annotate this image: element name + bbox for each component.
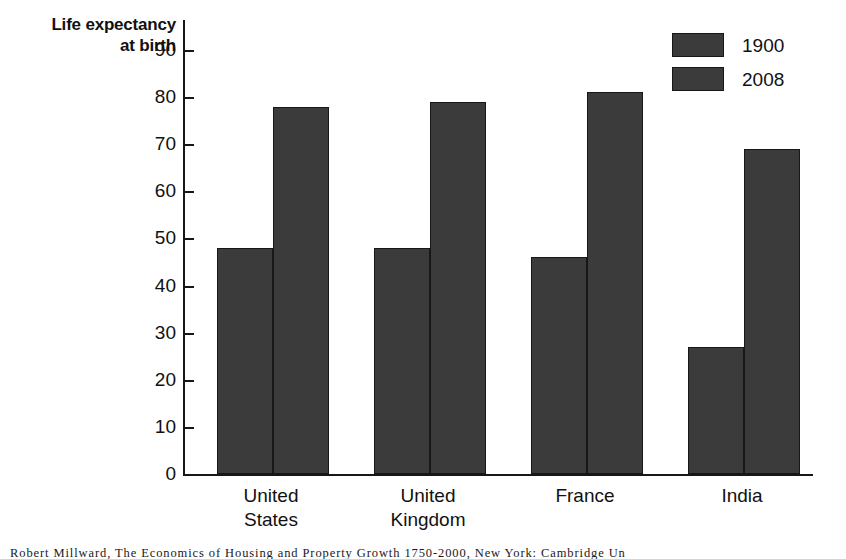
y-tick-label: 20	[155, 369, 176, 390]
legend-item: 2008	[672, 62, 842, 96]
y-tick-mark	[185, 474, 194, 476]
bar	[587, 92, 643, 474]
y-tick-label: 40	[155, 275, 176, 296]
y-tick-label: 60	[155, 180, 176, 201]
y-tick-label: 30	[155, 322, 176, 343]
legend-swatch	[672, 67, 724, 91]
bar	[531, 257, 587, 474]
bar	[273, 107, 329, 474]
bar-chart-figure: Life expectancy at birth 010203040506070…	[0, 0, 846, 559]
bar	[217, 248, 273, 474]
x-axis-category-label: United States	[187, 484, 355, 532]
x-axis-category-label: India	[658, 484, 826, 508]
figure-caption: Robert Millward, The Economics of Housin…	[10, 546, 840, 559]
y-axis-title: Life expectancy at birth	[8, 14, 176, 56]
legend-label: 1900	[742, 35, 784, 56]
y-tick-label: 70	[155, 133, 176, 154]
chart-legend: 19002008	[672, 28, 842, 96]
legend-label: 2008	[742, 69, 784, 90]
bar	[374, 248, 430, 474]
y-tick-label: 90	[155, 39, 176, 60]
y-tick-label: 50	[155, 227, 176, 248]
y-tick-label: 10	[155, 416, 176, 437]
x-axis-category-label: France	[501, 484, 669, 508]
x-axis-category-label: United Kingdom	[344, 484, 512, 532]
bar	[430, 102, 486, 474]
x-axis-line	[183, 474, 813, 476]
bar	[688, 347, 744, 474]
bar	[744, 149, 800, 474]
legend-swatch	[672, 33, 724, 57]
legend-item: 1900	[672, 28, 842, 62]
y-tick-label: 80	[155, 86, 176, 107]
y-tick-label: 0	[165, 463, 176, 484]
